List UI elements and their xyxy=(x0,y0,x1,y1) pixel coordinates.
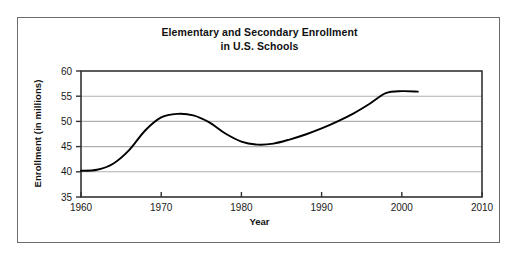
y-tick-label: 35 xyxy=(61,192,73,203)
x-tick-label: 2010 xyxy=(471,202,494,213)
axis-ticks-group xyxy=(76,71,482,197)
chart-figure: Elementary and Secondary Enrollment in U… xyxy=(17,17,500,243)
y-tick-label: 45 xyxy=(61,141,73,152)
y-tick-label: 55 xyxy=(61,91,73,102)
y-tick-label: 60 xyxy=(61,66,73,77)
x-tick-label: 2000 xyxy=(391,202,414,213)
x-tick-label: 1980 xyxy=(230,202,253,213)
y-tick-labels-group: 354045505560 xyxy=(61,66,73,203)
x-tick-label: 1990 xyxy=(310,202,333,213)
y-tick-label: 40 xyxy=(61,166,73,177)
x-tick-label: 1960 xyxy=(70,202,93,213)
data-line-enrollment xyxy=(81,91,418,171)
x-axis-label: Year xyxy=(18,216,501,227)
x-tick-label: 1970 xyxy=(150,202,173,213)
y-tick-label: 50 xyxy=(61,116,73,127)
data-series-group xyxy=(81,91,418,171)
chart-plot-area: 354045505560 196019701980199020002010 xyxy=(18,18,501,244)
x-tick-labels-group: 196019701980199020002010 xyxy=(70,202,494,213)
